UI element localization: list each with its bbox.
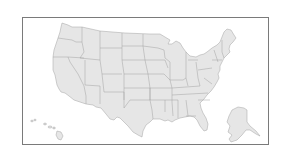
alaska (227, 107, 260, 142)
us-map (0, 0, 287, 157)
contiguous-us (53, 23, 236, 137)
hawaii (31, 119, 63, 140)
